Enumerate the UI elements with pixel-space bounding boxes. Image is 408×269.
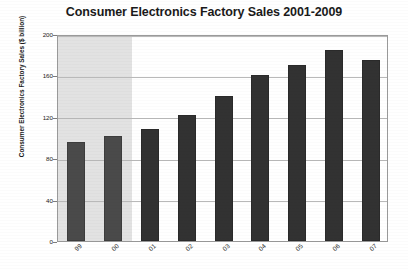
x-tick-label: 06 xyxy=(331,242,341,252)
bar xyxy=(178,115,196,241)
bar xyxy=(251,75,269,241)
y-tick-label: 120 xyxy=(23,114,53,121)
y-tick-label: 200 xyxy=(23,31,53,38)
x-tick-label: 01 xyxy=(147,242,157,252)
y-tick-label: 160 xyxy=(23,72,53,79)
bar-series xyxy=(58,36,387,241)
bar xyxy=(325,50,343,241)
bar xyxy=(215,96,233,241)
x-tick-label: 07 xyxy=(368,242,378,252)
y-tick-mark xyxy=(53,242,57,243)
chart-figure: Consumer Electronics Factory Sales 2001-… xyxy=(0,0,408,269)
chart-title: Consumer Electronics Factory Sales 2001-… xyxy=(0,5,408,19)
y-tick-label: 80 xyxy=(23,155,53,162)
x-tick-label: 02 xyxy=(184,242,194,252)
bar xyxy=(362,60,380,241)
y-tick-label: 0 xyxy=(23,238,53,245)
y-tick-label: 40 xyxy=(23,197,53,204)
x-tick-label: 00 xyxy=(110,242,120,252)
bar xyxy=(104,136,122,241)
bar xyxy=(67,142,85,241)
x-tick-label: 03 xyxy=(221,242,231,252)
x-tick-label: 04 xyxy=(257,242,267,252)
bar xyxy=(288,65,306,241)
x-tick-label: 05 xyxy=(294,242,304,252)
plot-area xyxy=(57,35,388,242)
bar xyxy=(141,129,159,241)
x-tick-label: 99 xyxy=(73,242,83,252)
